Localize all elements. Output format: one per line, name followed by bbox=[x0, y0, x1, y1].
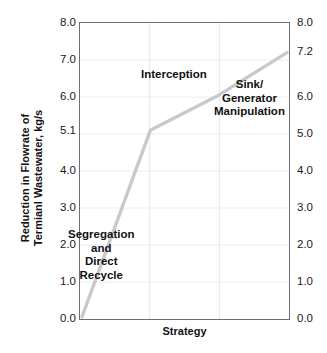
right-tick-2: 2.0 bbox=[297, 239, 313, 251]
annotation-sink-line-2: Generator bbox=[214, 92, 285, 106]
right-tick-1: 1.0 bbox=[297, 276, 313, 288]
annotation-segregation-line-1: Segregation bbox=[68, 228, 134, 242]
annotation-segregation-direct-recycle: Segregation and Direct Recycle bbox=[68, 228, 134, 282]
right-tick-0: 0.0 bbox=[297, 313, 313, 325]
annotation-segregation-line-2: and bbox=[68, 242, 134, 256]
right-axis-ticks: 8.0 7.2 6.0 5.0 4.0 3.0 2.0 1.0 0.0 bbox=[295, 0, 325, 353]
left-axis-ticks: 8.0 7.0 6.0 5.1 4.0 3.0 2.0 1.0 0.0 bbox=[48, 0, 78, 353]
left-tick-0: 0.0 bbox=[60, 313, 76, 325]
annotation-sink-generator-manipulation: Sink/ Generator Manipulation bbox=[214, 78, 285, 119]
right-tick-7-2: 7.2 bbox=[297, 46, 313, 58]
x-axis-title: Strategy bbox=[79, 325, 290, 337]
right-tick-4: 4.0 bbox=[297, 165, 313, 177]
figure-line-chart: Reduction in Flowrate of Termianl Wastew… bbox=[0, 0, 327, 353]
left-tick-7: 7.0 bbox=[60, 54, 76, 66]
left-tick-3: 3.0 bbox=[60, 202, 76, 214]
left-tick-4: 4.0 bbox=[60, 165, 76, 177]
annotation-sink-line-1: Sink/ bbox=[214, 78, 285, 92]
y-axis-title: Reduction in Flowrate of Termianl Wastew… bbox=[14, 88, 48, 268]
annotation-interception-line-1: Interception bbox=[141, 68, 207, 82]
annotation-sink-line-3: Manipulation bbox=[214, 105, 285, 119]
left-tick-8: 8.0 bbox=[60, 17, 76, 29]
left-tick-5: 5.1 bbox=[60, 125, 76, 137]
right-tick-8: 8.0 bbox=[297, 17, 313, 29]
left-tick-6: 6.0 bbox=[60, 91, 76, 103]
y-axis-title-line-1: Reduction in Flowrate of bbox=[19, 110, 32, 246]
annotation-interception: Interception bbox=[141, 68, 207, 82]
right-tick-3: 3.0 bbox=[297, 202, 313, 214]
right-tick-5: 5.0 bbox=[297, 128, 313, 140]
annotation-segregation-line-3: Direct bbox=[68, 255, 134, 269]
annotation-segregation-line-4: Recycle bbox=[68, 269, 134, 283]
y-axis-title-line-2: Termianl Wastewater, kg/s bbox=[31, 110, 44, 246]
right-tick-6: 6.0 bbox=[297, 91, 313, 103]
